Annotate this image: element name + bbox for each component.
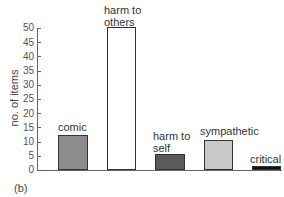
y-tick: [37, 99, 41, 100]
y-tick-label: 25: [20, 93, 34, 104]
bar-harm-to-others: [107, 27, 136, 170]
x-axis: [37, 170, 282, 171]
y-tick: [37, 156, 41, 157]
panel-label: (b): [14, 182, 27, 194]
y-tick-label: 40: [20, 51, 34, 62]
bar-label-harm-to-self-line1: harm to: [153, 130, 190, 142]
y-tick: [37, 113, 41, 114]
y-tick-label: 15: [20, 122, 34, 133]
bar-label-comic: comic: [58, 121, 87, 133]
bar-label-harm-to-self-line2: self: [153, 142, 170, 154]
bar-critical: [252, 166, 281, 170]
y-tick: [37, 85, 41, 86]
y-tick-label: 0: [20, 164, 34, 175]
bar-label-harm-to-others-line1: harm to: [104, 4, 141, 16]
bar-sympathetic: [204, 140, 233, 170]
y-tick: [37, 142, 41, 143]
y-tick-label: 10: [20, 136, 34, 147]
bar-label-sympathetic: sympathetic: [200, 125, 259, 137]
bar-label-harm-to-others-line2: others: [104, 16, 135, 28]
y-tick-label: 20: [20, 108, 34, 119]
bar-comic: [58, 135, 88, 170]
y-tick: [37, 170, 41, 171]
y-tick-label: 30: [20, 79, 34, 90]
y-tick: [37, 71, 41, 72]
y-tick: [37, 28, 41, 29]
y-tick: [37, 56, 41, 57]
y-tick: [37, 127, 41, 128]
y-tick-label: 35: [20, 65, 34, 76]
y-tick-label: 50: [20, 22, 34, 33]
y-axis-label: no. of items: [8, 70, 20, 127]
y-tick-label: 5: [20, 150, 34, 161]
bar-chart: no. of items 0 5 10 15 20 25 30 35 40 45…: [0, 0, 284, 197]
y-tick-label: 45: [20, 37, 34, 48]
bar-harm-to-self: [155, 154, 185, 170]
bar-label-critical: critical: [250, 153, 281, 165]
y-tick: [37, 42, 41, 43]
